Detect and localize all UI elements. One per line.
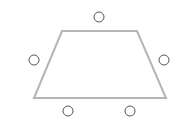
trapezoid-shape xyxy=(34,31,166,98)
circle-icon xyxy=(63,106,73,116)
circle-icon xyxy=(125,106,135,116)
circle-icon xyxy=(94,12,104,22)
circle-icon xyxy=(29,55,39,65)
circle-icon xyxy=(159,55,169,65)
diagram-canvas xyxy=(0,0,176,125)
circle-markers xyxy=(29,12,169,116)
